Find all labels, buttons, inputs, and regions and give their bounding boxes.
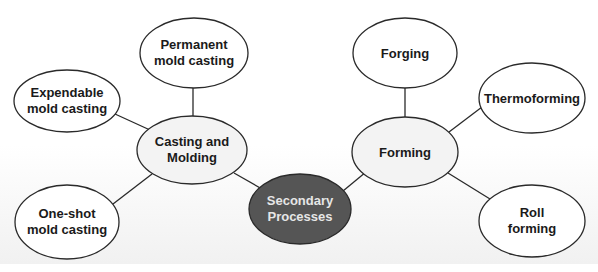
node-label: Permanent <box>160 37 228 52</box>
node-label: Processes <box>267 209 332 224</box>
node-label: Casting and <box>155 134 229 149</box>
node-roll-forming: Roll forming <box>479 185 585 257</box>
node-label: Expendable <box>31 85 104 100</box>
node-label: forming <box>508 221 556 236</box>
node-label: One-shot <box>38 206 96 221</box>
connector-oneshot-casting <box>113 174 152 204</box>
node-one-shot-mold-casting: One-shot mold casting <box>15 185 119 259</box>
node-label: mold casting <box>27 101 107 116</box>
node-permanent-mold-casting: Permanent mold casting <box>140 18 248 88</box>
node-expendable-mold-casting: Expendable mold casting <box>14 70 120 132</box>
node-label: mold casting <box>154 53 234 68</box>
node-secondary-processes: Secondary Processes <box>249 174 351 244</box>
node-label: Forming <box>379 145 431 160</box>
node-forming: Forming <box>352 117 458 187</box>
node-label: Forging <box>381 46 429 61</box>
node-label: Molding <box>167 150 217 165</box>
connector-casting-secondary <box>234 173 262 189</box>
concept-map: Permanent mold casting Expendable mold c… <box>0 0 598 272</box>
connector-expendable-casting <box>115 114 150 130</box>
node-forging: Forging <box>353 18 457 88</box>
connector-thermoforming-forming <box>449 107 482 132</box>
node-casting-and-molding: Casting and Molding <box>137 116 247 184</box>
node-label: Thermoforming <box>484 91 580 106</box>
node-thermoforming: Thermoforming <box>479 63 585 133</box>
node-label: Secondary <box>267 193 334 208</box>
node-label: Roll <box>520 205 545 220</box>
node-label: mold casting <box>27 222 107 237</box>
connector-rollforming-forming <box>448 173 490 199</box>
